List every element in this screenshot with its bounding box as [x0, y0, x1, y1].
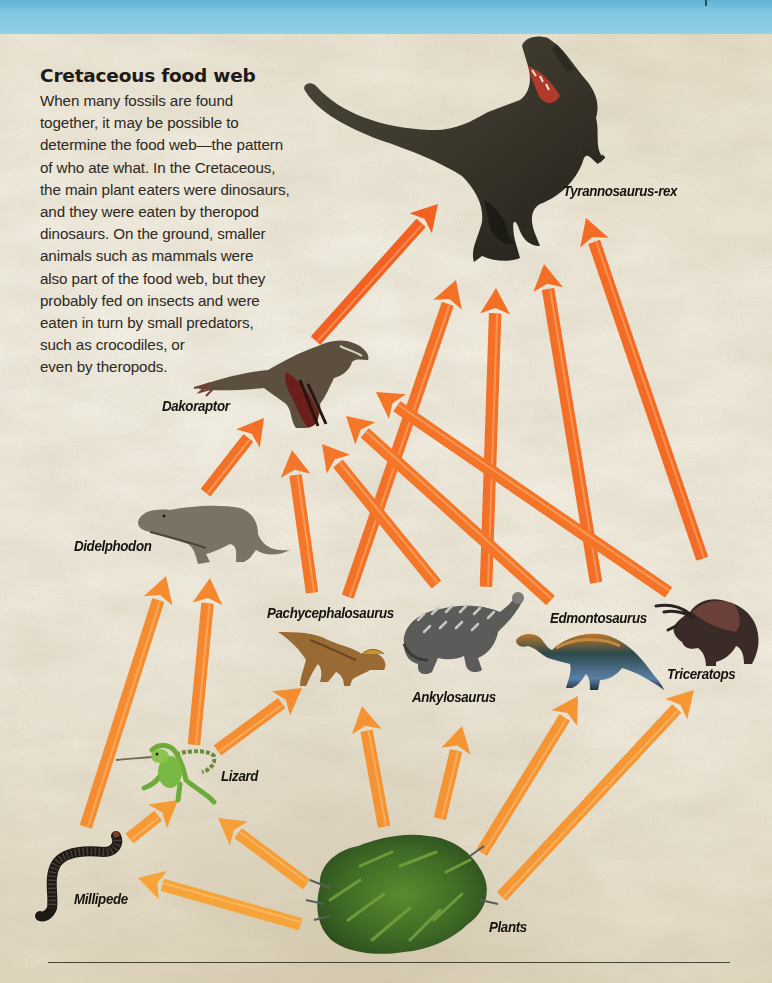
fern-plants-icon: [306, 835, 498, 954]
arrow-plants-to-lizard: [218, 818, 309, 888]
edmontosaurus-icon: [516, 634, 664, 690]
food-web-page: Cretaceous food web When many fossils ar…: [0, 0, 772, 983]
label-triceratops: Triceratops: [667, 666, 735, 682]
label-didelphodon: Didelphodon: [74, 538, 151, 554]
arrow-plants-to-pachy: [352, 706, 389, 827]
arrow-pachy-to-dakoraptor: [281, 450, 318, 593]
triceratops-icon: [656, 599, 759, 666]
arrow-dakoraptor-to-trex: [312, 204, 438, 344]
arrow-tricera-to-trex: [580, 218, 707, 560]
label-edmontosaurus: Edmontosaurus: [550, 610, 647, 626]
arrows-layer: [81, 204, 707, 929]
arrow-plants-to-millipede: [138, 871, 302, 930]
pachycephalosaurus-icon: [278, 632, 386, 686]
dakoraptor-icon: [194, 340, 368, 428]
arrow-ankylo-to-dakoraptor: [322, 444, 440, 587]
label-dakoraptor: Dakoraptor: [162, 398, 229, 414]
label-tyrannosaurus: Tyrannosaurus-rex: [563, 183, 677, 199]
label-pachycephalosaurus: Pachycephalosaurus: [267, 605, 394, 621]
didelphodon-icon: [138, 506, 290, 564]
arrow-plants-to-ankylo: [435, 726, 471, 819]
arrow-lizard-to-didelphodon: [189, 578, 223, 745]
label-lizard: Lizard: [221, 768, 258, 784]
lizard-icon: [116, 746, 214, 803]
arrow-lizard-to-pachy: [215, 688, 302, 754]
footer-rule: [48, 962, 730, 963]
label-ankylosaurus: Ankylosaurus: [412, 689, 496, 705]
label-millipede: Millipede: [74, 891, 128, 907]
food-web-diagram: [0, 0, 772, 983]
arrow-millipede-to-didelphodon: [81, 576, 173, 828]
arrow-didelphodon-to-dakoraptor: [202, 418, 264, 495]
ankylosaurus-icon: [404, 592, 524, 674]
tyrannosaurus-icon: [304, 36, 604, 262]
arrow-plants-to-tricera: [498, 690, 694, 900]
label-plants: Plants: [489, 919, 527, 935]
arrow-millipede-to-lizard: [127, 800, 178, 842]
